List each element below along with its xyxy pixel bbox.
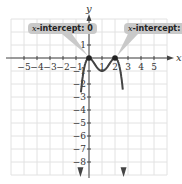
svg-text:2: 2 — [112, 62, 118, 72]
callout-x-intercept-0: x-intercept: 0 — [28, 23, 97, 34]
svg-text:−5: −5 — [73, 118, 87, 128]
callout-text: -intercept: 0 — [37, 24, 93, 33]
svg-text:−7: −7 — [73, 144, 87, 154]
callout-x-intercept-2: x-intercept: 2 — [124, 23, 182, 34]
callout-text: -intercept: 2 — [133, 24, 182, 33]
svg-text:−3: −3 — [43, 62, 57, 72]
svg-text:−3: −3 — [73, 92, 87, 102]
svg-text:−4: −4 — [73, 105, 87, 115]
svg-text:−6: −6 — [73, 131, 87, 141]
svg-text:y: y — [85, 3, 92, 14]
svg-text:x: x — [176, 52, 182, 63]
svg-text:−2: −2 — [73, 79, 86, 89]
svg-text:−2: −2 — [56, 62, 69, 72]
svg-text:−8: −8 — [73, 157, 87, 167]
svg-text:5: 5 — [151, 62, 157, 72]
svg-text:3: 3 — [125, 62, 131, 72]
svg-text:4: 4 — [138, 62, 144, 72]
svg-text:−4: −4 — [30, 62, 44, 72]
svg-text:−5: −5 — [17, 62, 31, 72]
